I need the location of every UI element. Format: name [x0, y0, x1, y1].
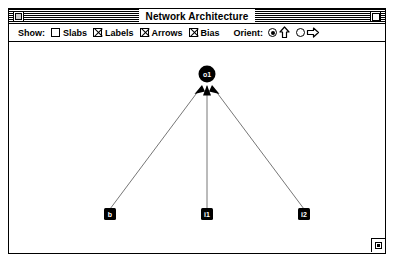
network-diagram: o1 b i1 i2: [9, 42, 385, 252]
connection-i2-to-o1[interactable]: [212, 86, 304, 209]
checkbox-bias[interactable]: Bias: [189, 24, 220, 42]
node-b[interactable]: b: [104, 208, 116, 220]
node-i1[interactable]: i1: [201, 208, 213, 220]
window-title-container: Network Architecture: [9, 9, 385, 24]
show-label: Show:: [18, 24, 45, 42]
orient-label: Orient:: [234, 24, 264, 42]
checkbox-slabs-box[interactable]: [51, 28, 60, 37]
node-i1-label: i1: [204, 211, 210, 218]
zoom-box-icon[interactable]: [370, 11, 381, 22]
checkbox-arrows[interactable]: Arrows: [140, 24, 183, 42]
desktop-background: Network Architecture Show: Slabs Labels …: [0, 0, 395, 263]
checkbox-labels-label: Labels: [105, 24, 134, 42]
network-diagram-canvas[interactable]: o1 b i1 i2: [9, 42, 385, 252]
arrow-right-icon[interactable]: [306, 26, 320, 39]
checkbox-labels[interactable]: Labels: [93, 24, 134, 42]
checkbox-arrows-label: Arrows: [152, 24, 183, 42]
options-toolbar: Show: Slabs Labels Arrows Bias: [9, 24, 385, 42]
checkbox-bias-label: Bias: [201, 24, 220, 42]
arrow-up-icon[interactable]: [278, 26, 291, 39]
arrowheads: [195, 85, 220, 96]
connection-lines: [110, 86, 304, 209]
window-title-bar[interactable]: Network Architecture: [9, 9, 385, 24]
orient-radio-group: Orient:: [234, 24, 321, 42]
checkbox-slabs-label: Slabs: [63, 24, 87, 42]
window-title: Network Architecture: [139, 9, 256, 24]
checkbox-labels-box[interactable]: [93, 28, 102, 37]
node-i2[interactable]: i2: [298, 208, 310, 220]
checkbox-slabs[interactable]: Slabs: [51, 24, 87, 42]
orient-option-horizontal[interactable]: [296, 26, 320, 39]
show-checkbox-group: Slabs Labels Arrows Bias: [45, 24, 220, 42]
network-architecture-window: Network Architecture Show: Slabs Labels …: [8, 8, 386, 254]
grow-box-icon[interactable]: [371, 238, 385, 252]
node-i2-label: i2: [301, 211, 307, 218]
arrowhead-i2: [209, 85, 220, 94]
node-o1-label: o1: [203, 71, 211, 78]
node-b-label: b: [108, 211, 112, 218]
checkbox-bias-box[interactable]: [189, 28, 198, 37]
arrowhead-b: [195, 85, 206, 94]
connection-b-to-o1[interactable]: [110, 86, 202, 209]
orient-option-vertical[interactable]: [268, 26, 291, 39]
orient-vertical-radio[interactable]: [268, 28, 277, 37]
node-o1[interactable]: o1: [199, 66, 216, 83]
checkbox-arrows-box[interactable]: [140, 28, 149, 37]
orient-horizontal-radio[interactable]: [296, 28, 305, 37]
